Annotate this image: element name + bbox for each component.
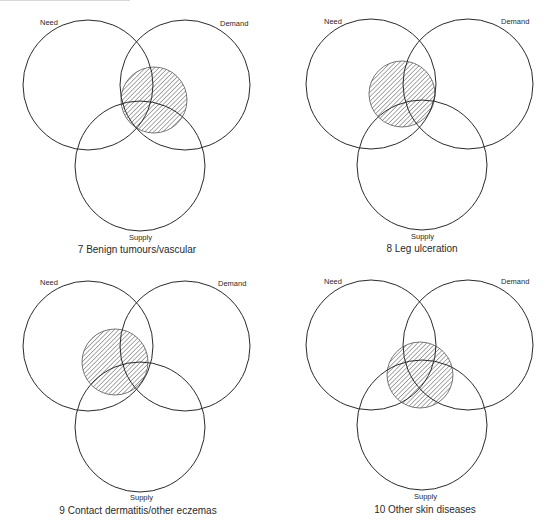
venn-diagram-figure: Need Demand Supply 7 Benign tumours/vasc… (0, 0, 549, 532)
venn-panel-contact-dermatitis: Need Demand Supply 9 Contact dermatitis/… (23, 278, 250, 516)
demand-label: Demand (501, 277, 529, 286)
hatched-overlap-circle (369, 61, 435, 127)
panel-caption: 9 Contact dermatitis/other eczemas (59, 505, 216, 516)
venn-panel-benign-tumours: Need Demand Supply 7 Benign tumours/vasc… (23, 18, 250, 255)
supply-label: Supply (414, 492, 437, 501)
venn-panel-other-skin-diseases: Need Demand Supply 10 Other skin disease… (306, 277, 533, 515)
demand-label: Demand (218, 279, 246, 288)
hatched-overlap-circle (121, 67, 187, 133)
demand-label: Demand (501, 17, 529, 26)
venn-panel-leg-ulceration: Need Demand Supply 8 Leg ulceration (306, 17, 533, 254)
supply-label: Supply (411, 232, 434, 241)
supply-label: Supply (130, 493, 153, 502)
need-label: Need (40, 18, 58, 27)
panel-caption: 10 Other skin diseases (374, 504, 476, 515)
demand-label: Demand (220, 19, 248, 28)
need-label: Need (324, 17, 342, 26)
supply-label: Supply (129, 233, 152, 242)
panel-caption: 7 Benign tumours/vascular (78, 244, 197, 255)
hatched-overlap-circle (387, 342, 453, 408)
need-label: Need (40, 278, 58, 287)
need-label: Need (324, 277, 342, 286)
panel-caption: 8 Leg ulceration (386, 243, 457, 254)
